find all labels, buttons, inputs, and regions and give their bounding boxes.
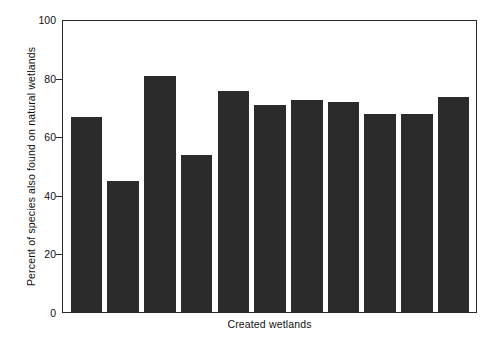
y-axis-tick-label: 40 xyxy=(2,191,56,201)
bar xyxy=(291,100,323,312)
bar xyxy=(71,117,103,312)
y-axis-tick-label: 20 xyxy=(2,249,56,259)
y-axis-tick-label: 80 xyxy=(2,74,56,84)
bar xyxy=(364,114,396,312)
bar xyxy=(254,105,286,312)
y-axis-tick-labels: 020406080100 xyxy=(0,0,56,351)
bar-series xyxy=(63,21,476,312)
plot-area xyxy=(62,20,477,313)
bar xyxy=(107,181,139,312)
bar xyxy=(401,114,433,312)
y-axis-tick-label: 0 xyxy=(2,308,56,318)
bar xyxy=(328,102,360,312)
bar xyxy=(181,155,213,312)
bar xyxy=(438,97,470,312)
bar-chart-figure: Percent of species also found on natural… xyxy=(0,0,497,351)
x-axis-title: Created wetlands xyxy=(62,318,477,330)
y-axis-tick-label: 100 xyxy=(2,15,56,25)
y-axis-tick-label: 60 xyxy=(2,132,56,142)
bar xyxy=(144,76,176,312)
bar xyxy=(218,91,250,312)
